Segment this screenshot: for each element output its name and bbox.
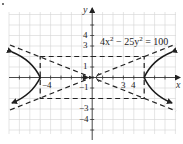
asymptote-negative-slope (10, 45, 176, 111)
hyperbola-graph: y x 4x2 − 25y2 = 100 −4 3 4 4 3 1 −1 −3 … (0, 0, 183, 144)
asymptote-positive-slope (10, 44, 176, 110)
x-tick-label-3: 3 (121, 80, 126, 90)
y-tick-label-1: 1 (83, 61, 88, 71)
y-tick-label-neg4: −4 (79, 114, 89, 124)
equation-label: 4x2 − 25y2 = 100 (100, 35, 168, 47)
x-axis-label: x (175, 79, 181, 90)
y-tick-label-3: 3 (83, 40, 88, 50)
y-tick-label-neg3: −3 (79, 103, 89, 113)
figure-marker-dot (2, 3, 4, 5)
x-tick-label-4: 4 (131, 80, 136, 90)
y-axis-label: y (82, 4, 88, 15)
y-tick-label-neg1: −1 (79, 82, 89, 92)
x-tick-label-neg4: −4 (42, 80, 52, 90)
y-tick-label-4: 4 (83, 30, 88, 40)
